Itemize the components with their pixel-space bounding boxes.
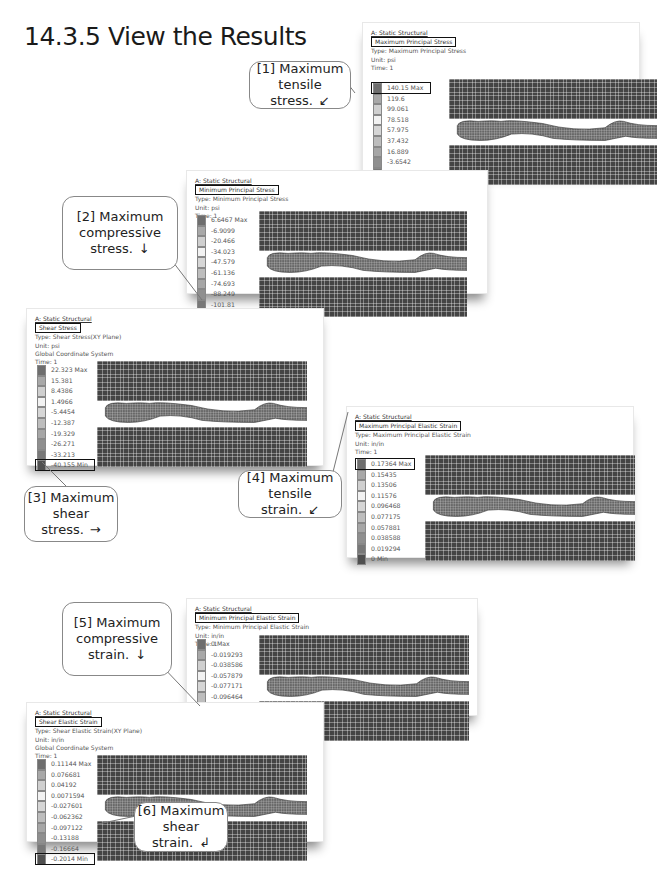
legend-row: -0.019293 bbox=[197, 650, 267, 661]
callout-text: stress. bbox=[90, 241, 133, 256]
callout-line: tensile strain.↙ bbox=[239, 486, 341, 518]
legend-row: 78.518 bbox=[373, 115, 443, 126]
legend-value: 0.038588 bbox=[371, 534, 401, 541]
legend-swatch bbox=[197, 226, 206, 237]
callout-5: [5] Maximumcompressivestrain.↓ bbox=[62, 602, 172, 676]
analysis-label: A: Static Structural bbox=[195, 605, 252, 612]
legend-value: -0.038586 bbox=[211, 661, 243, 668]
callout-1: [1] Maximumtensile stress.↙ bbox=[249, 61, 351, 109]
legend-swatch bbox=[37, 386, 46, 397]
legend-row: 57.975 bbox=[373, 125, 443, 136]
legend-value: -0.057879 bbox=[211, 672, 243, 679]
legend-swatch bbox=[373, 147, 382, 158]
mesh-plot bbox=[425, 455, 635, 561]
legend-value: -34.023 bbox=[211, 248, 235, 255]
callout-line: [2] Maximum bbox=[63, 209, 177, 225]
result-title: Shear Elastic Strain bbox=[35, 717, 102, 727]
callout-line: [3] Maximum bbox=[25, 490, 117, 506]
legend-row: -6.9099 bbox=[197, 226, 267, 237]
result-panel-max-principal-stress: A: Static StructuralMaximum Principal St… bbox=[362, 22, 640, 172]
legend-row: 0.019294 bbox=[357, 544, 427, 555]
arrow-icon: ↲ bbox=[199, 835, 210, 850]
legend-row: 0 Max bbox=[197, 639, 267, 650]
legend-swatch bbox=[197, 639, 206, 650]
analysis-label: A: Static Structural bbox=[195, 177, 252, 184]
callout-line: [6] Maximum bbox=[135, 803, 227, 819]
legend-row: 6.6467 Max bbox=[197, 215, 267, 226]
result-header: A: Static StructuralShear Elastic Strain… bbox=[35, 709, 142, 760]
legend-value: 8.4386 bbox=[51, 387, 73, 394]
legend-value: 0 Min bbox=[371, 555, 388, 562]
legend-swatch bbox=[197, 268, 206, 279]
deformed-beam-mesh bbox=[97, 361, 307, 467]
result-unit: Unit: in/in bbox=[35, 736, 64, 743]
legend-value: -20.466 bbox=[211, 237, 235, 244]
legend-swatch bbox=[357, 523, 366, 534]
mesh-plot bbox=[97, 361, 307, 467]
legend-swatch bbox=[197, 247, 206, 258]
legend-value: 0.04192 bbox=[51, 781, 77, 788]
legend-row: -0.077171 bbox=[197, 681, 267, 692]
legend-value: -33.213 bbox=[51, 451, 75, 458]
legend-row: -88.249 bbox=[197, 289, 267, 300]
result-type: Type: Shear Stress(XY Plane) bbox=[35, 333, 121, 340]
legend-value: 16.889 bbox=[387, 148, 409, 155]
legend-value: 0.13506 bbox=[371, 481, 397, 488]
legend-value: -0.096464 bbox=[211, 693, 243, 700]
legend-value: -0.019293 bbox=[211, 651, 243, 658]
legend-swatch bbox=[37, 418, 46, 429]
legend-value: -0.13188 bbox=[51, 834, 79, 841]
legend-value: 22.323 Max bbox=[51, 366, 87, 373]
callout-text: compressive bbox=[79, 225, 161, 240]
legend-value: -3.6542 bbox=[387, 158, 411, 165]
legend-swatch bbox=[197, 650, 206, 661]
legend-value: -19.329 bbox=[51, 430, 75, 437]
legend-swatch bbox=[357, 491, 366, 502]
legend-row: 0.057881 bbox=[357, 523, 427, 534]
legend-value: -0.062362 bbox=[51, 813, 83, 820]
legend-value: -74.693 bbox=[211, 280, 235, 287]
result-time: Time: 1 bbox=[35, 752, 57, 759]
legend-value: 0.096468 bbox=[371, 502, 401, 509]
legend-swatch bbox=[37, 791, 46, 802]
legend-row: -61.136 bbox=[197, 268, 267, 279]
legend-value: 37.432 bbox=[387, 137, 409, 144]
analysis-label: A: Static Structural bbox=[35, 315, 92, 322]
legend-row: 0 Min bbox=[357, 554, 427, 565]
arrow-icon: → bbox=[90, 522, 101, 537]
legend-row: -3.6542 bbox=[373, 157, 443, 168]
min-value-highlight bbox=[35, 459, 95, 471]
legend-swatch bbox=[373, 115, 382, 126]
callout-line: [5] Maximum bbox=[63, 615, 171, 631]
legend-swatch bbox=[357, 470, 366, 481]
coordinate-system: Global Coordinate System bbox=[35, 744, 113, 751]
legend-row: 0.11576 bbox=[357, 491, 427, 502]
legend-value: 0.0071594 bbox=[51, 792, 84, 799]
legend-value: 0.11576 bbox=[371, 492, 397, 499]
legend-swatch bbox=[197, 692, 206, 703]
result-unit: Unit: psi bbox=[35, 342, 60, 349]
legend-swatch bbox=[37, 397, 46, 408]
callout-line: [4] Maximum bbox=[239, 470, 341, 486]
result-title: Minimum Principal Stress bbox=[195, 185, 279, 195]
legend-value: 57.975 bbox=[387, 126, 409, 133]
legend-swatch bbox=[197, 681, 206, 692]
legend-row: 119.6 bbox=[373, 94, 443, 105]
color-legend: 0.17364 Max0.154350.135060.115760.096468… bbox=[357, 459, 427, 565]
legend-row: 99.061 bbox=[373, 104, 443, 115]
min-value-highlight bbox=[35, 853, 95, 865]
callout-text: tensile strain. bbox=[261, 486, 312, 517]
legend-value: -0.027601 bbox=[51, 802, 83, 809]
legend-swatch bbox=[197, 289, 206, 300]
callout-line: shear strain.↲ bbox=[135, 819, 227, 851]
result-time: Time: 1 bbox=[35, 358, 57, 365]
legend-value: 0.076681 bbox=[51, 771, 81, 778]
legend-value: 0.077175 bbox=[371, 513, 401, 520]
legend-swatch bbox=[37, 759, 46, 770]
legend-swatch bbox=[37, 780, 46, 791]
legend-value: -61.136 bbox=[211, 269, 235, 276]
legend-swatch bbox=[373, 136, 382, 147]
callout-line: stress.↓ bbox=[63, 241, 177, 257]
result-type: Type: Minimum Principal Elastic Strain bbox=[195, 623, 309, 630]
legend-row: -0.096464 bbox=[197, 692, 267, 703]
